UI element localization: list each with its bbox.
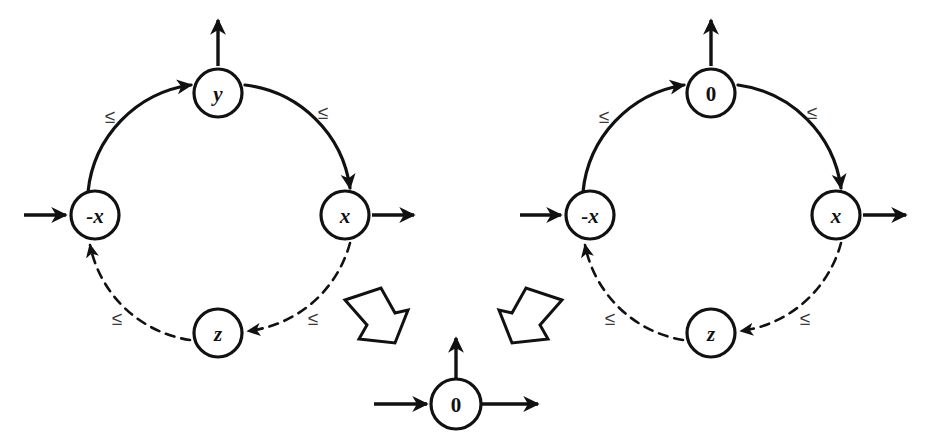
node-label: 0: [451, 393, 462, 417]
node-label: z: [213, 322, 223, 346]
edge-label-bottom-to-left: ≤: [112, 308, 122, 329]
constraint-graph-figure: y x z -x ≤ ≤ ≤ ≤: [0, 0, 939, 444]
edge-label-top-to-right: ≤: [807, 102, 817, 123]
node-label: -x: [581, 204, 599, 228]
figure-background: [0, 0, 939, 444]
node-label: x: [339, 204, 351, 228]
edge-label-right-to-bottom: ≤: [308, 308, 318, 329]
node-label: -x: [86, 204, 104, 228]
edge-label-left-to-top: ≤: [105, 106, 115, 127]
figure-canvas: y x z -x ≤ ≤ ≤ ≤: [0, 0, 939, 444]
node-right-left: -x: [566, 191, 614, 239]
node-label: x: [830, 204, 842, 228]
node-right-top: 0: [687, 69, 735, 117]
edge-label-bottom-to-left: ≤: [605, 308, 615, 329]
node-right-right: x: [812, 191, 860, 239]
node-left-bottom: z: [194, 309, 242, 357]
node-label: z: [706, 322, 716, 346]
node-left-right: x: [321, 191, 369, 239]
edge-label-right-to-bottom: ≤: [800, 308, 810, 329]
edge-label-left-to-top: ≤: [599, 106, 609, 127]
node-left-top: y: [194, 69, 242, 117]
edge-label-top-to-right: ≤: [318, 102, 328, 123]
node-right-bottom: z: [687, 309, 735, 357]
node-label: 0: [706, 82, 717, 106]
node-left-left: -x: [71, 191, 119, 239]
